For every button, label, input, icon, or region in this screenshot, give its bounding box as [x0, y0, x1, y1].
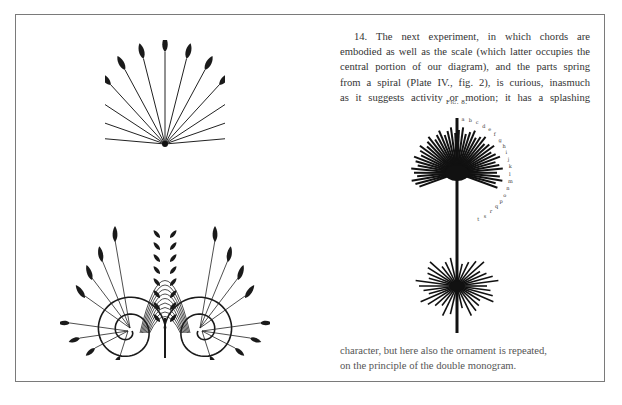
fig-8-splash-illustration: abcdefghijklmnopqrst	[405, 118, 535, 338]
paragraph-line: character, but here also the ornament is…	[340, 343, 590, 358]
svg-text:k: k	[509, 163, 513, 169]
paragraph-continuation: character, but here also the ornament is…	[340, 343, 590, 373]
figure-caption: Fig. 8.	[446, 98, 467, 106]
svg-text:j: j	[507, 156, 510, 163]
fig-8-figure: abcdefghijklmnopqrst	[405, 118, 535, 338]
fan-ornament-illustration	[105, 40, 225, 150]
svg-text:l: l	[509, 171, 511, 177]
paragraph-14: 14. The next experiment, in which chords…	[340, 29, 590, 105]
svg-text:c: c	[476, 119, 479, 125]
paragraph-line: 14. The next experiment, in which chords…	[340, 29, 590, 44]
paragraph-line: embodied as well as the scale (which lat…	[340, 44, 590, 59]
double-spiral-ornament-illustration	[60, 208, 270, 360]
svg-text:m: m	[508, 178, 513, 184]
svg-text:p: p	[500, 198, 503, 205]
paragraph-line: central portion of our diagram), and the…	[340, 59, 590, 74]
fan-ornament-figure	[105, 40, 225, 150]
svg-text:o: o	[503, 192, 506, 198]
svg-text:r: r	[490, 208, 493, 214]
svg-text:b: b	[469, 118, 472, 123]
svg-text:i: i	[506, 149, 508, 155]
svg-text:q: q	[495, 203, 499, 210]
paragraph-line: from a spiral (Plate IV., fig. 2), is cu…	[340, 75, 590, 90]
svg-text:d: d	[482, 123, 486, 129]
svg-text:s: s	[484, 213, 487, 219]
svg-text:n: n	[506, 185, 510, 191]
svg-text:f: f	[494, 131, 497, 137]
paragraph-line: on the principle of the double monogram.	[340, 358, 590, 373]
svg-text:h: h	[502, 143, 506, 149]
svg-text:a: a	[462, 118, 465, 122]
svg-text:e: e	[488, 126, 491, 132]
svg-text:t: t	[477, 216, 479, 222]
double-spiral-ornament-figure	[60, 208, 270, 360]
